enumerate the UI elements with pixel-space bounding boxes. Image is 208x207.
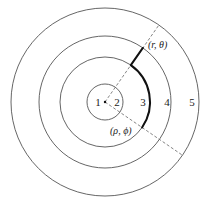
region-label-5: 5 xyxy=(189,96,195,108)
region-label-4: 4 xyxy=(164,96,170,108)
region-label-2: 2 xyxy=(114,96,120,108)
concentric-circles-diagram: 12345 (r, θ) (ρ, ϕ) xyxy=(0,0,208,207)
point-label-rho-phi: (ρ, ϕ) xyxy=(110,125,132,137)
region-label-3: 3 xyxy=(140,96,146,108)
point-label-r-theta: (r, θ) xyxy=(148,39,168,51)
shortest-path-curve xyxy=(131,48,150,128)
center-point xyxy=(104,101,106,103)
region-label-1: 1 xyxy=(95,96,101,108)
region-labels: 12345 xyxy=(95,96,195,108)
